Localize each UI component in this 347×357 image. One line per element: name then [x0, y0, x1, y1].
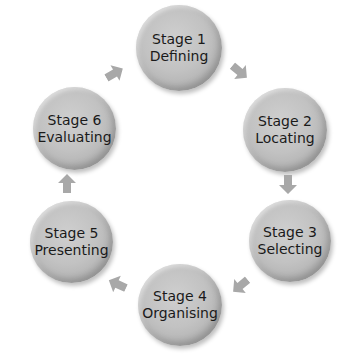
stage-number: Stage 6: [48, 112, 102, 129]
stage-label: Presenting: [34, 242, 108, 259]
arrow-up-icon: [57, 173, 77, 193]
stage-number: Stage 4: [153, 288, 207, 305]
arrow-down-right-icon: [226, 58, 254, 86]
arrow-up-left-icon: [104, 271, 131, 298]
stage-3-selecting: Stage 3 Selecting: [249, 200, 331, 282]
stage-number: Stage 1: [152, 31, 206, 48]
stage-number: Stage 2: [258, 113, 312, 130]
stage-label: Locating: [255, 130, 315, 147]
arrow-down-left-icon: [226, 272, 254, 300]
stage-number: Stage 3: [263, 224, 317, 241]
stage-2-locating: Stage 2 Locating: [243, 88, 327, 172]
stage-label: Selecting: [258, 241, 323, 258]
stage-label: Evaluating: [37, 129, 111, 146]
arrow-up-right-icon: [101, 59, 128, 86]
stage-6-evaluating: Stage 6 Evaluating: [33, 87, 116, 170]
stage-number: Stage 5: [45, 225, 99, 242]
stage-label: Defining: [150, 48, 209, 65]
stage-1-defining: Stage 1 Defining: [136, 5, 222, 91]
stage-4-organising: Stage 4 Organising: [138, 264, 222, 346]
stage-5-presenting: Stage 5 Presenting: [30, 201, 113, 283]
stage-label: Organising: [142, 305, 218, 322]
arrow-down-icon: [278, 175, 298, 195]
